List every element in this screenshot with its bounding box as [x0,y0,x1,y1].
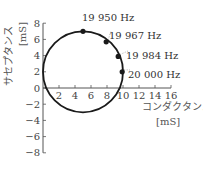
x-tick-label: 6 [88,90,94,101]
x-tick-label: 2 [56,90,62,101]
frequency-point [80,29,85,34]
y-tick-label: 4 [34,50,40,61]
frequency-label: 19 984 Hz [126,50,178,61]
frequency-label: 19 967 Hz [109,30,161,41]
x-axis-title: コンダクタンス [142,100,203,112]
y-tick-label: 8 [34,18,40,29]
y-tick-label: 6 [34,34,40,45]
admittance-circle-path [43,31,123,112]
frequency-point [116,54,121,59]
frequency-point [120,69,125,74]
y-axis-unit: [mS] [17,22,28,46]
x-axis-unit: [mS] [156,116,180,127]
y-tick-label: −8 [25,147,40,158]
frequency-points: 19 950 Hz19 967 Hz19 984 Hz20 000 Hz [80,12,180,80]
x-tick-label: 12 [133,90,146,101]
admittance-circle [43,31,123,112]
x-tick-label: 14 [149,90,162,101]
x-tick-label: 16 [165,90,178,101]
x-tick-label: 4 [72,90,78,101]
y-tick-label: −4 [25,115,40,126]
frequency-label: 19 950 Hz [82,12,134,23]
y-tick-label: 0 [34,83,40,94]
y-tick-label: −2 [25,99,40,110]
frequency-label: 20 000 Hz [128,69,180,80]
x-tick-label: 8 [104,90,110,101]
y-axis-title: サセプタンス [3,26,14,86]
admittance-circle-chart: 86420−2−4−6−8246810121416 19 950 Hz19 96… [0,0,203,171]
y-tick-label: 2 [34,66,40,77]
y-tick-label: −6 [25,131,40,142]
